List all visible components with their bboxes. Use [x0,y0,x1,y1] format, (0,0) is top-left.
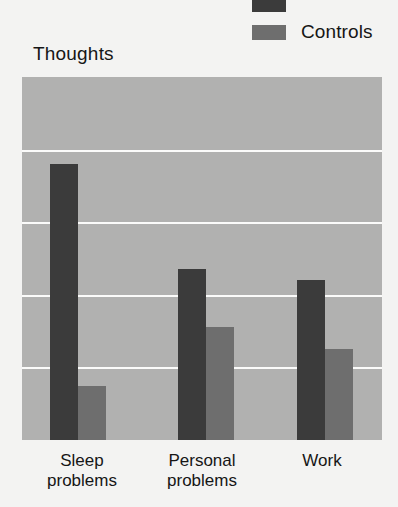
bar-group-sleep-problems [22,77,142,440]
bar-controls-work [325,349,353,440]
bar-patients-work [297,280,325,440]
x-axis-label-sleep-problems: Sleep problems [22,449,142,507]
legend-label-controls: Controls [301,21,373,43]
legend-swatch-patients [252,0,286,12]
x-label-line1: Personal [142,451,262,471]
x-label-line1: Work [262,451,382,471]
plot-area [22,77,382,440]
x-axis-label-personal-problems: Personal problems [142,449,262,507]
x-label-line2: problems [142,471,262,491]
x-label-line2: problems [22,471,142,491]
bar-controls-sleep-problems [78,386,106,440]
bar-controls-personal-problems [206,327,234,440]
legend-item-patients [252,0,398,18]
x-label-line1: Sleep [22,451,142,471]
bar-patients-sleep-problems [50,164,78,440]
legend-item-controls: Controls [252,18,398,46]
bar-group-personal-problems [142,77,262,440]
x-axis-labels: Sleep problems Personal problems Work [22,449,382,507]
chart-legend: Controls [252,0,398,46]
x-axis-label-work: Work [262,449,382,507]
legend-swatch-controls [252,25,286,40]
chart-figure: Controls Thoughts [0,0,398,507]
bar-groups [22,77,382,440]
chart-title: Thoughts [33,43,114,65]
bar-patients-personal-problems [178,269,206,440]
bar-group-work [262,77,382,440]
